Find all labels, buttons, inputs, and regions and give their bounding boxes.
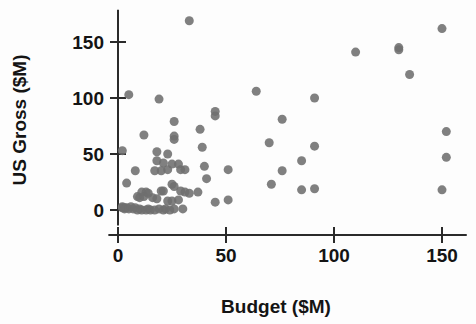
scatter-point (438, 24, 447, 33)
scatter-point (180, 165, 189, 174)
scatter-point (278, 166, 287, 175)
scatter-point (310, 142, 319, 151)
y-tick-label: 150 (72, 32, 104, 53)
scatter-point (297, 156, 306, 165)
scatter-point (193, 188, 202, 197)
scatter-point (211, 111, 220, 120)
scatter-point (139, 130, 148, 139)
scatter-point (163, 150, 172, 159)
scatter-point (170, 135, 179, 144)
scatter-point (442, 153, 451, 162)
scatter-point (163, 165, 172, 174)
scatter-point (152, 194, 161, 203)
scatter-point (405, 70, 414, 79)
y-tick-label: 0 (93, 200, 104, 221)
scatter-point (394, 45, 403, 54)
scatter-point (170, 204, 179, 213)
scatter-point (131, 166, 140, 175)
scatter-point (265, 138, 274, 147)
scatter-point (278, 115, 287, 124)
scatter-point (198, 143, 207, 152)
scatter-point (122, 179, 131, 188)
scatter-point (139, 192, 148, 201)
scatter-point (351, 48, 360, 57)
x-axis-title: Budget ($M) (221, 296, 331, 317)
scatter-point (310, 94, 319, 103)
scatter-point (211, 198, 220, 207)
axes (109, 11, 465, 235)
data-points (118, 16, 451, 214)
x-tick-label: 50 (215, 245, 236, 266)
tick-labels: 050100150050100150 (72, 32, 458, 266)
scatter-point (174, 195, 183, 204)
scatter-point (118, 146, 127, 155)
scatter-point (224, 195, 233, 204)
scatter-point (297, 185, 306, 194)
x-tick-label: 150 (426, 245, 458, 266)
chart-canvas: 050100150050100150 Budget ($M) US Gross … (0, 0, 476, 324)
scatter-point (224, 165, 233, 174)
y-axis-title: US Gross ($M) (9, 55, 30, 186)
scatter-point (152, 147, 161, 156)
y-tick-label: 50 (83, 144, 104, 165)
scatter-point (310, 184, 319, 193)
scatter-point (124, 90, 133, 99)
scatter-point (159, 186, 168, 195)
scatter-point (442, 127, 451, 136)
scatter-point (200, 162, 209, 171)
scatter-point (170, 117, 179, 126)
scatter-point (267, 180, 276, 189)
scatter-point (252, 87, 261, 96)
scatter-point (178, 204, 187, 213)
scatter-point (155, 95, 164, 104)
scatter-point (196, 125, 205, 134)
x-tick-label: 0 (113, 245, 124, 266)
scatter-point (185, 189, 194, 198)
scatter-point (202, 174, 211, 183)
x-tick-label: 100 (318, 245, 350, 266)
scatter-point (185, 16, 194, 25)
y-tick-label: 100 (72, 88, 104, 109)
scatter-point (438, 185, 447, 194)
scatter-plot-figure: 050100150050100150 Budget ($M) US Gross … (0, 0, 476, 324)
